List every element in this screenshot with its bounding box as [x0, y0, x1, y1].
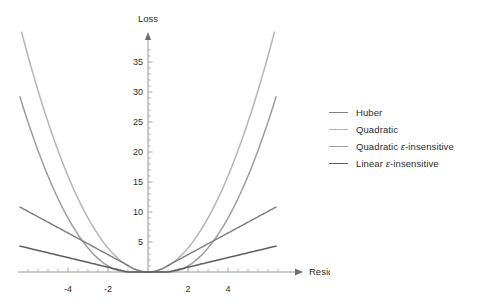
y-tick-label-1: 10 — [133, 207, 143, 217]
legend-swatch-huber — [329, 112, 348, 113]
x-axis-title: Residual — [309, 266, 330, 277]
y-tick-label-6: 35 — [133, 57, 143, 67]
legend-label-quadratic: Quadratic — [356, 124, 398, 135]
legend-item-quadratic[interactable]: Quadratic — [329, 121, 477, 138]
legend-swatch-linear-eps-insensitive — [329, 163, 348, 164]
legend-item-quadratic-eps-insensitive[interactable]: Quadratic ε-insensitive — [329, 138, 477, 155]
chart-svg: -4 -2 2 4 5 10 15 20 25 30 35 Loss Resid… — [0, 0, 330, 304]
axes-group — [18, 32, 303, 275]
legend-label-quadratic-eps-insensitive: Quadratic ε-insensitive — [356, 141, 454, 152]
legend-label-linear-eps-insensitive: Linear ε-insensitive — [356, 158, 439, 169]
y-tick-label-3: 20 — [133, 147, 143, 157]
x-tick-label-0: -4 — [64, 284, 72, 294]
legend-label-huber: Huber — [356, 107, 382, 118]
y-axis-title: Loss — [138, 13, 158, 24]
x-axis-arrow — [295, 269, 303, 276]
x-tick-label-1: -2 — [104, 284, 112, 294]
y-tick-label-0: 5 — [138, 237, 143, 247]
y-tick-label-4: 25 — [133, 117, 143, 127]
x-tick-label-2: 2 — [185, 284, 190, 294]
x-tick-label-3: 4 — [225, 284, 230, 294]
y-ticks — [148, 50, 153, 266]
legend: Huber Quadratic Quadratic ε-insensitive … — [329, 104, 477, 172]
plot-area: -4 -2 2 4 5 10 15 20 25 30 35 Loss Resid… — [0, 0, 330, 304]
y-tick-label-5: 30 — [133, 87, 143, 97]
legend-swatch-quadratic-eps-insensitive — [329, 146, 348, 147]
legend-item-linear-eps-insensitive[interactable]: Linear ε-insensitive — [329, 155, 477, 172]
y-tick-label-2: 15 — [133, 177, 143, 187]
legend-item-huber[interactable]: Huber — [329, 104, 477, 121]
y-axis-arrow — [145, 32, 151, 40]
legend-swatch-quadratic — [329, 129, 348, 130]
figure: -4 -2 2 4 5 10 15 20 25 30 35 Loss Resid… — [0, 0, 477, 304]
